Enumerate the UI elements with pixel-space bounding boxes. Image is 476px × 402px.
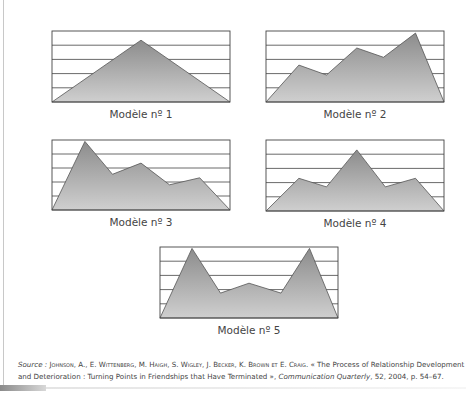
source-journal: Communication Quarterly <box>278 372 370 381</box>
source-line-2: and Deterioration : Turning Points in Fr… <box>18 371 474 383</box>
chart-panel-modele-3: Modèle nº 3 <box>52 140 230 228</box>
source-title-line2: and Deterioration : Turning Points in Fr… <box>18 372 276 381</box>
chart-caption: Modèle nº 1 <box>110 108 173 120</box>
chart-panel-modele-5: Modèle nº 5 <box>160 247 338 336</box>
source-prefix: Source : <box>18 360 49 369</box>
source-line-1: Source : Johnson, A., E. Wittenberg, M. … <box>18 359 474 371</box>
figure-charts: Modèle nº 1 Modèle nº 2 Modèle nº 3 Modè… <box>0 0 476 402</box>
source-details: , 52, 2004, p. 54–67. <box>370 372 443 381</box>
source-citation: Source : Johnson, A., E. Wittenberg, M. … <box>18 359 474 382</box>
source-title-open: « The Process of Relationship Developmen… <box>308 360 464 369</box>
chart-caption: Modèle nº 3 <box>110 216 173 228</box>
chart-caption: Modèle nº 5 <box>218 324 281 336</box>
chart-panel-modele-1: Modèle nº 1 <box>52 31 230 120</box>
chart-panel-modele-4: Modèle nº 4 <box>266 140 444 229</box>
chart-caption: Modèle nº 4 <box>324 217 387 229</box>
chart-caption: Modèle nº 2 <box>324 108 387 120</box>
chart-panel-modele-2: Modèle nº 2 <box>266 31 444 120</box>
source-authors: Johnson, A., E. Wittenberg, M. Haigh, S.… <box>49 360 308 369</box>
